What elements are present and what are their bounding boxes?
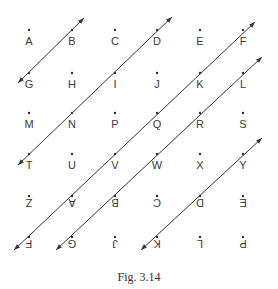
grid-point: M bbox=[24, 112, 33, 130]
grid-point: I bbox=[113, 72, 116, 90]
point-dot bbox=[114, 72, 116, 74]
point-dot bbox=[71, 112, 73, 114]
point-label-rotated: B bbox=[111, 197, 118, 209]
point-label-rotated: Z bbox=[25, 197, 32, 209]
point-dot bbox=[114, 153, 116, 155]
point-label: Y bbox=[239, 159, 247, 171]
point-label: Q bbox=[153, 118, 162, 130]
grid-point: K bbox=[196, 72, 204, 90]
point-dot bbox=[242, 29, 244, 31]
point-label-rotated: P bbox=[239, 238, 246, 250]
figure-caption: Fig. 3.14 bbox=[117, 270, 160, 284]
grid-point: P bbox=[111, 112, 118, 130]
point-dot bbox=[71, 153, 73, 155]
point-dot bbox=[28, 112, 30, 114]
point-dot bbox=[28, 195, 30, 197]
grid-point: T bbox=[26, 153, 33, 171]
point-label-rotated: A bbox=[68, 197, 76, 209]
point-dot bbox=[242, 236, 244, 238]
grid-point: D bbox=[196, 195, 204, 209]
point-label-rotated: L bbox=[197, 238, 203, 250]
grid-point: Z bbox=[25, 195, 32, 209]
point-label-rotated: F bbox=[25, 238, 32, 250]
point-label: E bbox=[196, 35, 203, 47]
grid-point: P bbox=[239, 236, 246, 250]
point-dot bbox=[156, 153, 158, 155]
grid-point: A bbox=[68, 195, 76, 209]
grid-point: E bbox=[196, 29, 203, 47]
point-dot bbox=[71, 29, 73, 31]
point-label: S bbox=[239, 118, 246, 130]
point-label: V bbox=[111, 159, 119, 171]
point-dot bbox=[199, 195, 201, 197]
point-label: T bbox=[26, 159, 33, 171]
line-segment bbox=[18, 17, 172, 165]
grid-point: B bbox=[68, 29, 75, 47]
point-label: I bbox=[113, 78, 116, 90]
point-dot bbox=[156, 195, 158, 197]
point-dot bbox=[242, 195, 244, 197]
point-dot bbox=[114, 195, 116, 197]
point-dot bbox=[71, 236, 73, 238]
point-dot bbox=[114, 236, 116, 238]
grid-point: C bbox=[111, 29, 119, 47]
point-label: D bbox=[153, 35, 161, 47]
point-dot bbox=[199, 29, 201, 31]
grid-point: E bbox=[239, 195, 246, 209]
point-label: R bbox=[196, 118, 204, 130]
point-label: H bbox=[68, 78, 76, 90]
point-dot bbox=[156, 29, 158, 31]
point-label: N bbox=[68, 118, 76, 130]
grid-point: U bbox=[68, 153, 76, 171]
point-label-rotated: K bbox=[153, 238, 161, 250]
grid-point: X bbox=[196, 153, 204, 171]
point-label: G bbox=[25, 78, 34, 90]
line-T-D bbox=[18, 17, 172, 165]
point-dot bbox=[242, 153, 244, 155]
point-dot bbox=[28, 72, 30, 74]
point-label: X bbox=[196, 159, 204, 171]
grid-point: V bbox=[111, 153, 119, 171]
point-label: M bbox=[24, 118, 33, 130]
point-dot bbox=[242, 112, 244, 114]
point-label-rotated: C bbox=[153, 197, 161, 209]
point-dot bbox=[156, 112, 158, 114]
point-label: P bbox=[111, 118, 118, 130]
grid-point: C bbox=[153, 195, 161, 209]
point-label-rotated: E bbox=[239, 197, 246, 209]
letter-grid: ABCDEFGHIJKLMNPQRSTUVWXYZABCDEFGJKLP bbox=[24, 29, 247, 250]
grid-point: N bbox=[68, 112, 76, 130]
point-dot bbox=[199, 236, 201, 238]
grid-point: J bbox=[112, 236, 118, 250]
grid-point: S bbox=[239, 112, 246, 130]
point-label: J bbox=[154, 78, 160, 90]
point-dot bbox=[28, 153, 30, 155]
grid-point: J bbox=[154, 72, 160, 90]
grid-point: H bbox=[68, 72, 76, 90]
grid-point: L bbox=[197, 236, 203, 250]
lattice-figure: ABCDEFGHIJKLMNPQRSTUVWXYZABCDEFGJKLP Fig… bbox=[0, 0, 278, 289]
point-dot bbox=[114, 29, 116, 31]
point-label-rotated: G bbox=[68, 238, 77, 250]
point-dot bbox=[199, 72, 201, 74]
line-F-F bbox=[14, 22, 255, 250]
point-dot bbox=[199, 112, 201, 114]
point-dot bbox=[156, 72, 158, 74]
point-dot bbox=[28, 236, 30, 238]
point-dot bbox=[71, 195, 73, 197]
point-dot bbox=[199, 153, 201, 155]
point-label: L bbox=[240, 78, 246, 90]
point-label-rotated: D bbox=[196, 197, 204, 209]
line-segment bbox=[14, 22, 255, 250]
point-dot bbox=[28, 29, 30, 31]
parallel-lines bbox=[14, 17, 262, 250]
point-dot bbox=[71, 72, 73, 74]
point-label: C bbox=[111, 35, 119, 47]
point-label: U bbox=[68, 159, 76, 171]
point-label: F bbox=[240, 35, 247, 47]
point-label: W bbox=[152, 159, 163, 171]
point-label: B bbox=[68, 35, 75, 47]
point-label-rotated: J bbox=[112, 238, 118, 250]
point-label: K bbox=[196, 78, 204, 90]
point-dot bbox=[114, 112, 116, 114]
